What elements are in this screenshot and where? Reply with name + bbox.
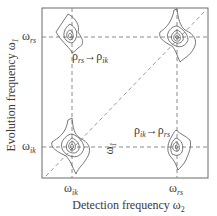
y-axis-text: Evolution frequency ω <box>4 42 18 151</box>
y-tick-omega-ik: ωik <box>22 140 36 157</box>
diagonal-peak-rs <box>160 9 196 62</box>
arrow-icon: → <box>146 123 158 137</box>
tick-subscript: rs <box>177 188 183 197</box>
annotation-ik-to-rs: ρik→ρrs <box>134 124 170 141</box>
diagonal-peak-ik <box>52 118 90 174</box>
cross-peak-lower-right <box>168 130 191 170</box>
x-tick-omega-ik: ωik <box>64 182 78 199</box>
arrow-icon: → <box>84 49 96 63</box>
tick-subscript: ik <box>72 188 78 197</box>
y-tick-omega-rs: ωrs <box>22 30 36 47</box>
rho-subscript: ik <box>102 56 108 65</box>
y-axis-title: Evolution frequency ω1 <box>4 38 20 151</box>
x-axis-text: Detection frequency ω <box>72 198 181 212</box>
omega-subscript: 1 <box>109 143 118 147</box>
tick-subscript: rs <box>30 36 36 45</box>
cross-peak-upper-left <box>56 14 83 53</box>
tick-symbol: ω <box>169 181 177 195</box>
x-axis-subscript: 2 <box>181 205 185 214</box>
tick-symbol: ω <box>22 29 30 43</box>
x-tick-omega-rs: ωrs <box>169 182 183 199</box>
y-axis-subscript: 1 <box>11 38 20 42</box>
center-omega1-label: ω1 <box>103 143 120 155</box>
omega-symbol: ω <box>102 147 116 155</box>
rho-subscript: rs <box>164 130 170 139</box>
tick-subscript: ik <box>30 146 36 155</box>
tick-symbol: ω <box>64 181 72 195</box>
annotation-rs-to-ik: ρrs→ρik <box>72 50 108 67</box>
tick-symbol: ω <box>22 139 30 153</box>
x-axis-title: Detection frequency ω2 <box>40 198 217 214</box>
